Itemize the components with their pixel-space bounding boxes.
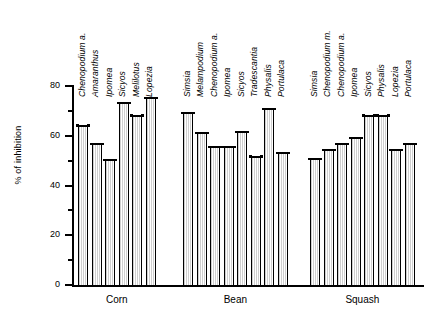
bar-cap-right <box>87 124 90 126</box>
bar-cap-right <box>141 114 144 116</box>
y-axis-label: % of inhibition <box>13 95 23 215</box>
bar-cap-right <box>101 143 104 145</box>
bar-cap-left <box>144 97 147 99</box>
bar-cap-left <box>249 155 252 157</box>
bar <box>146 97 156 285</box>
y-tick-label-text: 40 <box>34 181 60 190</box>
bar <box>378 115 388 285</box>
bar <box>264 108 274 285</box>
species-label: Physalis <box>376 64 386 97</box>
y-tick-label: 80 <box>34 81 60 90</box>
y-tick-label-text: 60 <box>34 131 60 140</box>
y-tick-label: 60 <box>34 131 60 140</box>
x-axis-line <box>72 285 424 287</box>
bar <box>405 143 415 285</box>
bar-cap-right <box>260 155 263 157</box>
species-label: Physalis <box>263 64 273 97</box>
bar <box>224 146 234 285</box>
species-label: Lopezia <box>144 66 154 97</box>
y-tick-label-text: 80 <box>34 81 60 90</box>
bar-cap-left <box>322 149 325 151</box>
bar-chart-figure: % of inhibition 020406080 Chenopodium a.… <box>0 0 445 315</box>
species-label: Chenopodium a. <box>336 33 346 97</box>
bar <box>119 102 129 285</box>
bar <box>197 132 207 285</box>
bar-cap-right <box>387 114 390 116</box>
bar-cap-left <box>235 131 238 133</box>
y-tick-label: 20 <box>34 230 60 239</box>
species-label: Melilotus <box>131 62 141 97</box>
bar-cap-right <box>128 102 131 104</box>
bar-cap-right <box>287 152 290 154</box>
bar <box>183 112 193 285</box>
bar-cap-left <box>103 159 106 161</box>
species-label: Portulaca <box>276 60 286 97</box>
bar-cap-left <box>130 114 133 116</box>
bar-cap-left <box>195 132 198 134</box>
bar-cap-right <box>360 137 363 139</box>
species-label: Ipomea <box>104 68 114 97</box>
group-label: Corn <box>78 294 156 305</box>
bar-cap-right <box>233 146 236 148</box>
species-label: Chenopodium a. <box>77 33 87 97</box>
bar <box>391 149 401 285</box>
bar-cap-left <box>76 124 79 126</box>
bar <box>337 143 347 285</box>
bar-cap-right <box>192 112 195 114</box>
bar <box>105 159 115 285</box>
bar <box>310 158 320 285</box>
species-label: Melampodium <box>195 42 205 97</box>
species-label: Sicyos <box>363 71 373 97</box>
bar-cap-right <box>246 131 249 133</box>
species-label: Portulaca <box>403 60 413 97</box>
bar-cap-left <box>181 112 184 114</box>
group-label: Bean <box>183 294 288 305</box>
bar <box>278 152 288 285</box>
bar-cap-left <box>389 149 392 151</box>
species-label: Ipomea <box>222 68 232 97</box>
species-label: Tradescantia <box>249 47 259 97</box>
species-label: Simsia <box>309 71 319 97</box>
bar-cap-left <box>276 152 279 154</box>
bar <box>92 143 102 285</box>
bar <box>251 156 261 285</box>
bar-cap-right <box>273 108 276 110</box>
bar-cap-right <box>206 132 209 134</box>
bar <box>351 137 361 285</box>
species-label: Lopezia <box>390 66 400 97</box>
bar <box>324 149 334 285</box>
bar <box>132 115 142 285</box>
species-label: Sicyos <box>117 71 127 97</box>
bar-cap-left <box>262 108 265 110</box>
bar-cap-right <box>319 158 322 160</box>
plot-area <box>72 86 424 285</box>
bar-cap-left <box>376 114 379 116</box>
bar-cap-right <box>414 143 417 145</box>
bar-cap-right <box>155 97 158 99</box>
bar <box>78 125 88 285</box>
bar-cap-right <box>114 159 117 161</box>
y-tick-label-text: 20 <box>34 230 60 239</box>
group-label: Squash <box>310 294 415 305</box>
species-label: Sicyos <box>236 71 246 97</box>
bar-cap-left <box>349 137 352 139</box>
bar <box>210 146 220 285</box>
bar-cap-left <box>403 143 406 145</box>
bar-cap-right <box>346 143 349 145</box>
species-label: Ipomea <box>349 68 359 97</box>
species-label: Chenopodium m. <box>322 30 332 97</box>
bar-cap-left <box>308 158 311 160</box>
bar <box>237 131 247 285</box>
bar-cap-left <box>117 102 120 104</box>
species-label: Chenopodium a. <box>209 33 219 97</box>
species-label: Simsia <box>182 71 192 97</box>
species-label: Amaranthus <box>90 50 100 97</box>
bar-cap-right <box>400 149 403 151</box>
bar-cap-left <box>362 114 365 116</box>
y-tick-label-text: 0 <box>34 280 60 289</box>
bar <box>364 115 374 285</box>
bar-cap-left <box>90 143 93 145</box>
bar-cap-left <box>208 146 211 148</box>
y-tick-label: 0 <box>34 280 60 289</box>
y-tick-label: 40 <box>34 181 60 190</box>
